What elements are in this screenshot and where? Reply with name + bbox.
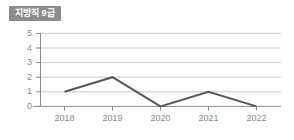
y-tick-label-2: 2 (16, 73, 32, 82)
y-tick-label-0: 0 (16, 102, 32, 111)
gridlines (40, 33, 281, 91)
y-tick-label-3: 3 (16, 58, 32, 67)
x-tick-label-2020: 2020 (141, 114, 181, 123)
x-tick-label-2019: 2019 (93, 114, 133, 123)
y-tick-label-5: 5 (16, 29, 32, 38)
x-tick-label-2021: 2021 (189, 114, 229, 123)
x-tick-label-2022: 2022 (237, 114, 277, 123)
chart-figure: 지방직 9급 (0, 0, 294, 140)
plot-area: 5 4 3 2 1 0 2018 2019 2020 2021 2022 (0, 0, 294, 140)
y-axis-ticks (36, 33, 41, 106)
x-tick-label-2018: 2018 (45, 114, 85, 123)
y-tick-label-1: 1 (16, 87, 32, 96)
y-tick-label-4: 4 (16, 44, 32, 53)
